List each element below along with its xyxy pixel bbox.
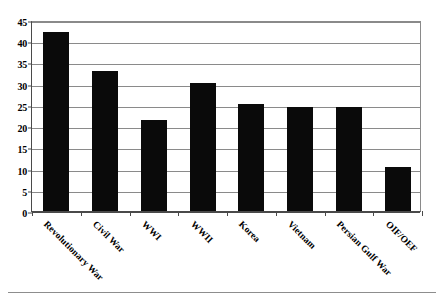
- x-tick-label-civil-war: Civil War: [91, 219, 127, 255]
- y-tick-label-20: 20: [17, 123, 27, 134]
- bar-vietnam: [287, 107, 313, 211]
- y-tick-label-0: 0: [22, 208, 27, 219]
- x-axis-labels-layer: Revolutionary WarCivil WarWWIWWIIKoreaVi…: [31, 212, 421, 292]
- y-tick-label-5: 5: [22, 186, 27, 197]
- y-tick-label-40: 40: [17, 38, 27, 49]
- y-tick-label-35: 35: [17, 59, 27, 70]
- bar-wwi: [141, 120, 167, 211]
- x-tick-label-wwi: WWI: [140, 219, 163, 242]
- x-tick-label-oif-oef: OIF/OEF: [384, 219, 419, 254]
- bar-persian-gulf-war: [336, 107, 362, 211]
- y-tick-label-15: 15: [17, 144, 27, 155]
- x-tick-label-korea: Korea: [237, 219, 262, 244]
- bar-revolutionary-war: [43, 32, 69, 211]
- y-tick-label-25: 25: [17, 101, 27, 112]
- bar-civil-war: [92, 71, 118, 211]
- bottom-divider-rule: [8, 292, 436, 293]
- x-tick-label-vietnam: Vietnam: [286, 219, 318, 251]
- y-tick-label-30: 30: [17, 80, 27, 91]
- bar-wwii: [190, 83, 216, 211]
- plot-area: 051015202530354045: [31, 21, 421, 212]
- bars-layer: [32, 22, 420, 211]
- bar-chart-figure: 051015202530354045 Revolutionary WarCivi…: [0, 0, 444, 305]
- x-tick-label-wwii: WWII: [189, 219, 215, 245]
- x-tick-mark-end: [422, 211, 423, 216]
- y-tick-label-45: 45: [17, 17, 27, 28]
- bar-oif-oef: [385, 167, 411, 211]
- y-tick-label-10: 10: [17, 165, 27, 176]
- bar-korea: [238, 104, 264, 211]
